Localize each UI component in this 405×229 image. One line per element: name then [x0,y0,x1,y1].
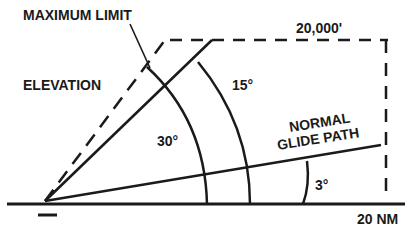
max-limit-dashed-line [45,40,165,201]
arc-3 [303,161,308,204]
angle-15-label: 15° [232,77,253,93]
max-limit-label: MAXIMUM LIMIT [23,7,132,23]
altitude-label: 20,000' [296,20,342,36]
glide-path-diagram: MAXIMUM LIMIT ELEVATION 20,000' 15° 30° … [0,0,405,229]
angle-3-label: 3° [315,177,328,193]
max-limit-leader [130,24,150,68]
angle-30-label: 30° [157,133,178,149]
range-label: 20 NM [357,211,398,227]
elevation-label: ELEVATION [23,77,101,93]
